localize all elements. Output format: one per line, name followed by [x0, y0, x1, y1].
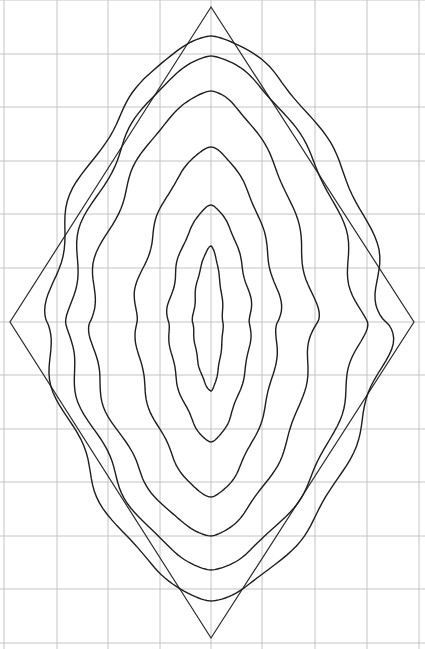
- contour-loop-3: [89, 91, 320, 536]
- contours: [45, 36, 394, 601]
- contour-loop-2: [66, 56, 368, 570]
- diagram-canvas: [0, 0, 425, 649]
- contour-loop-5: [167, 205, 252, 442]
- contour-loop-1: [45, 36, 394, 601]
- grid: [0, 0, 425, 649]
